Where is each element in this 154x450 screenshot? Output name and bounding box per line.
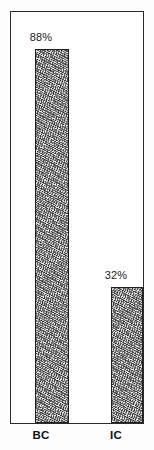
bar-chart: 88% 32% BC IC	[0, 0, 154, 450]
bar-ic	[111, 287, 143, 423]
category-label-ic: IC	[93, 429, 139, 441]
category-label-bc: BC	[18, 429, 64, 441]
bar-bc	[35, 49, 69, 423]
plot-frame	[10, 11, 144, 424]
bar-value-label-bc: 88%	[18, 31, 64, 43]
bar-value-label-ic: 32%	[93, 269, 139, 281]
